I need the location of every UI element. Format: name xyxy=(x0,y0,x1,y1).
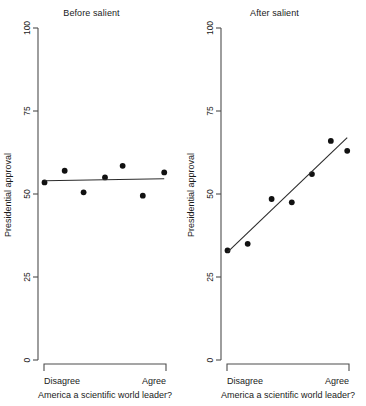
y-ticklabel-50: 50 xyxy=(205,189,215,199)
x-ticklabel-agree: Agree xyxy=(142,376,166,386)
data-point xyxy=(245,241,251,247)
data-point xyxy=(269,196,275,202)
y-ticklabel-0: 0 xyxy=(22,357,32,362)
panel-before-salient: Before salient Presidential approval 100… xyxy=(0,0,183,406)
x-ticklabel-agree: Agree xyxy=(325,376,349,386)
figure-canvas: Before salient Presidential approval 100… xyxy=(0,0,366,406)
y-ticklabel-50: 50 xyxy=(22,189,32,199)
x-axis-bracket xyxy=(227,364,349,371)
y-ticklabel-25: 25 xyxy=(22,272,32,282)
x-axis-label: America a scientific world leader? xyxy=(38,390,172,400)
plot-area-after: 100 75 50 25 0 Disagree Agree America a … xyxy=(183,0,366,406)
data-point xyxy=(161,170,167,176)
y-ticklabel-75: 75 xyxy=(205,106,215,116)
x-ticklabel-disagree: Disagree xyxy=(44,376,80,386)
x-ticklabel-disagree: Disagree xyxy=(227,376,263,386)
data-point xyxy=(81,189,87,195)
series-points xyxy=(225,138,351,253)
data-point xyxy=(140,193,146,199)
data-point xyxy=(289,199,295,205)
y-ticklabel-75: 75 xyxy=(22,106,32,116)
data-point xyxy=(62,168,68,174)
x-axis-label: America a scientific world leader? xyxy=(221,390,355,400)
data-point xyxy=(328,138,334,144)
data-point xyxy=(120,163,126,169)
regression-line xyxy=(228,138,348,253)
plot-area-before: 100 75 50 25 0 Disagree Agree America a … xyxy=(0,0,183,406)
y-ticklabel-100: 100 xyxy=(205,21,215,35)
y-ticklabel-25: 25 xyxy=(205,272,215,282)
data-point xyxy=(344,148,350,154)
panel-after-salient: After salient Presidential approval 100 … xyxy=(183,0,366,406)
x-axis-bracket xyxy=(44,364,166,371)
y-ticklabel-0: 0 xyxy=(205,357,215,362)
y-ticklabel-100: 100 xyxy=(22,21,32,35)
